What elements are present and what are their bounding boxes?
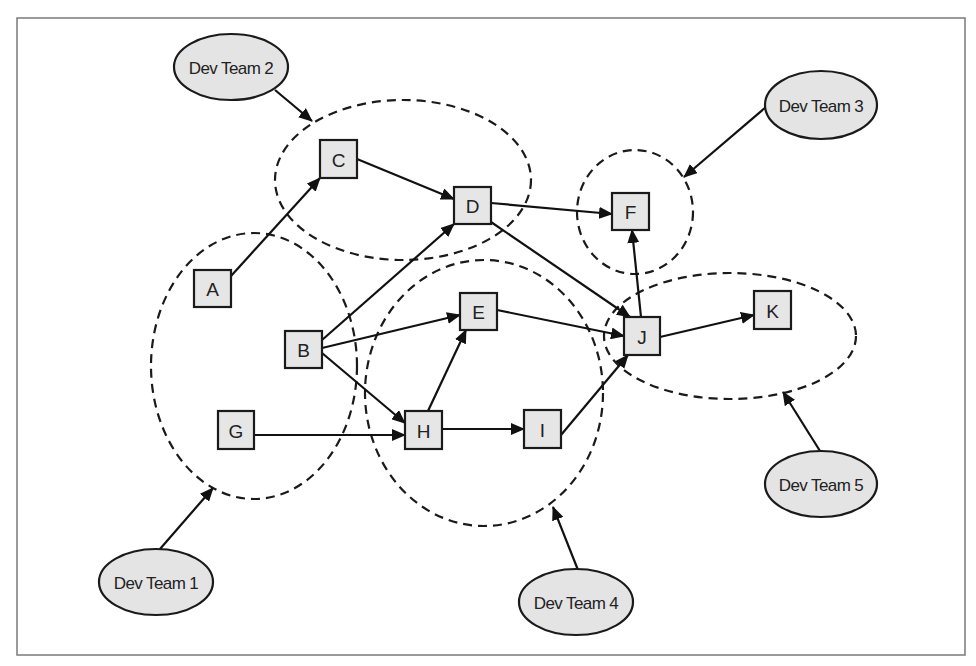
node-label: B: [297, 340, 310, 361]
dependency-diagram: ABCDEFGHIJK Dev Team 1Dev Team 2Dev Team…: [0, 0, 976, 666]
node-k: K: [754, 291, 791, 329]
node-label: K: [766, 301, 779, 322]
node-i: I: [524, 410, 561, 448]
team-label: Dev Team 3: [779, 97, 864, 116]
team4-bubble: Dev Team 4: [519, 569, 633, 635]
node-j: J: [624, 317, 660, 355]
team-label: Dev Team 5: [779, 476, 864, 495]
team5-bubble: Dev Team 5: [765, 451, 877, 517]
node-label: G: [229, 421, 244, 442]
node-label: J: [637, 327, 647, 348]
node-label: E: [472, 302, 485, 323]
node-f: F: [612, 193, 649, 230]
node-e: E: [460, 293, 497, 330]
node-d: D: [454, 187, 491, 224]
team-label: Dev Team 1: [114, 574, 199, 593]
node-label: C: [332, 150, 346, 171]
node-h: H: [405, 411, 442, 449]
node-c: C: [320, 140, 357, 178]
node-label: A: [206, 279, 219, 300]
node-label: D: [466, 196, 480, 217]
node-label: F: [625, 202, 637, 223]
node-label: I: [540, 420, 545, 441]
team2-bubble: Dev Team 2: [174, 34, 288, 100]
node-label: H: [417, 421, 431, 442]
node-g: G: [218, 411, 254, 449]
team1-bubble: Dev Team 1: [99, 549, 213, 615]
node-b: B: [285, 331, 322, 368]
team3-bubble: Dev Team 3: [765, 71, 877, 139]
team-label: Dev Team 2: [189, 59, 274, 78]
node-a: A: [194, 270, 231, 307]
team-label: Dev Team 4: [534, 594, 619, 613]
